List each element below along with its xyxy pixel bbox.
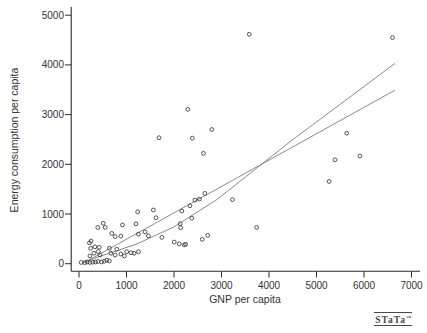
data-point	[154, 216, 158, 220]
x-tick-label: 7000	[400, 280, 423, 291]
y-tick-label: 5000	[42, 10, 65, 21]
y-tick-label: 0	[58, 258, 64, 269]
linear-fit-line	[83, 90, 395, 263]
data-point	[89, 246, 93, 250]
data-point	[97, 245, 101, 249]
data-point	[113, 235, 117, 239]
data-point	[200, 237, 204, 241]
x-tick-label: 4000	[258, 280, 281, 291]
data-point	[134, 222, 138, 226]
data-point	[210, 128, 214, 132]
data-point	[190, 216, 194, 220]
data-point	[179, 226, 183, 230]
x-tick-label: 0	[76, 280, 82, 291]
y-tick-label: 3000	[42, 109, 65, 120]
y-axis-title: Energy consumption per capita	[8, 67, 20, 212]
data-point	[121, 223, 125, 227]
data-point	[88, 254, 92, 258]
data-point	[101, 221, 105, 225]
data-point	[186, 107, 190, 111]
data-point	[146, 234, 150, 238]
data-point	[231, 198, 235, 202]
data-point	[247, 32, 251, 36]
data-point	[125, 250, 129, 254]
data-point	[391, 36, 395, 40]
data-point	[206, 233, 210, 237]
y-tick-label: 4000	[42, 59, 65, 70]
data-point	[202, 151, 206, 155]
data-point	[92, 251, 96, 255]
data-point	[110, 231, 114, 235]
data-point	[136, 250, 140, 254]
data-point	[143, 230, 147, 234]
data-point	[93, 245, 97, 249]
x-tick-label: 5000	[305, 280, 328, 291]
plot-area: 0100020003000400050000100020003000400050…	[42, 7, 423, 291]
trademark-symbol: ™	[406, 315, 411, 320]
data-point	[190, 136, 194, 140]
data-point	[177, 242, 181, 246]
data-point	[122, 254, 126, 258]
chart-figure: 0100020003000400050000100020003000400050…	[0, 0, 427, 333]
scatter-plot: 0100020003000400050000100020003000400050…	[0, 0, 427, 333]
data-point	[103, 226, 107, 230]
data-point	[255, 226, 259, 230]
data-point	[136, 210, 140, 214]
y-tick-label: 1000	[42, 209, 65, 220]
x-tick-label: 3000	[210, 280, 233, 291]
data-point	[160, 235, 164, 239]
x-tick-label: 2000	[163, 280, 186, 291]
data-point	[113, 253, 117, 257]
data-point	[203, 191, 207, 195]
data-point	[333, 158, 337, 162]
x-tick-label: 6000	[353, 280, 376, 291]
data-point	[327, 180, 331, 184]
stata-logo: STaTa™	[374, 312, 412, 326]
data-point	[180, 209, 184, 213]
x-tick-label: 1000	[115, 280, 138, 291]
data-point	[172, 240, 176, 244]
data-point	[96, 226, 100, 230]
x-axis-title: GNP per capita	[209, 293, 281, 305]
data-point	[119, 234, 123, 238]
smooth-fit-line	[83, 63, 395, 262]
data-point	[157, 136, 161, 140]
data-point	[151, 208, 155, 212]
stata-logo-text: STaTa	[375, 315, 406, 325]
data-point	[345, 131, 349, 135]
y-tick-label: 2000	[42, 159, 65, 170]
data-point	[358, 154, 362, 158]
